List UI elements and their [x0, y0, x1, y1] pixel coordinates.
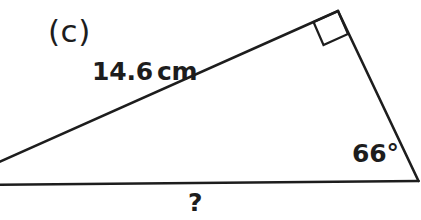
part-label: (c): [48, 16, 91, 47]
base-line: [0, 181, 419, 185]
hypotenuse-length-unit: cm: [157, 57, 197, 86]
unknown-side-label: ?: [188, 190, 203, 215]
angle-label: 66°: [352, 141, 399, 166]
triangle-figure: (c) 14.6cm 66° ?: [0, 0, 421, 220]
hypotenuse-length-value: 14.6: [92, 57, 153, 86]
right-angle-marker-icon: [314, 11, 349, 45]
hypotenuse-length-label: 14.6cm: [92, 59, 197, 84]
